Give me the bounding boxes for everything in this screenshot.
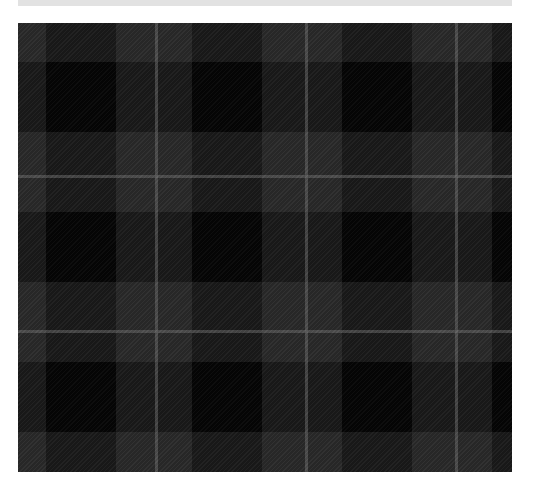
caption-bar [18,0,512,6]
twill-texture [18,23,512,472]
tartan-fabric-image [18,23,512,472]
